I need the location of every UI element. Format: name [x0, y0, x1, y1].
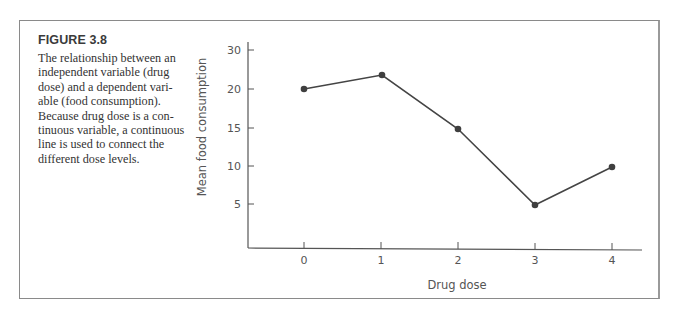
- svg-text:20: 20: [227, 83, 241, 96]
- data-series-line: [304, 75, 612, 205]
- data-point: [609, 164, 616, 171]
- svg-text:2: 2: [455, 254, 462, 267]
- y-axis-title: Mean food consumption: [195, 58, 209, 197]
- x-axis: [248, 248, 642, 250]
- x-axis-title: Drug dose: [427, 278, 486, 292]
- line-chart: 30 20 15 10 5 0 1 2 3 4 Drug dose Mean f…: [0, 0, 676, 323]
- svg-text:0: 0: [301, 254, 308, 267]
- svg-text:30: 30: [227, 44, 241, 57]
- svg-text:5: 5: [234, 198, 241, 211]
- y-tick-labels: 30 20 15 10 5: [227, 44, 241, 211]
- data-point: [532, 202, 539, 209]
- svg-text:1: 1: [378, 254, 385, 267]
- data-point: [455, 126, 462, 133]
- y-ticks: [248, 50, 254, 204]
- svg-text:4: 4: [609, 254, 616, 267]
- x-tick-labels: 0 1 2 3 4: [301, 254, 616, 267]
- svg-text:10: 10: [227, 160, 241, 173]
- svg-text:3: 3: [532, 254, 539, 267]
- data-point: [379, 72, 386, 79]
- svg-text:15: 15: [227, 122, 241, 135]
- data-point: [301, 86, 308, 93]
